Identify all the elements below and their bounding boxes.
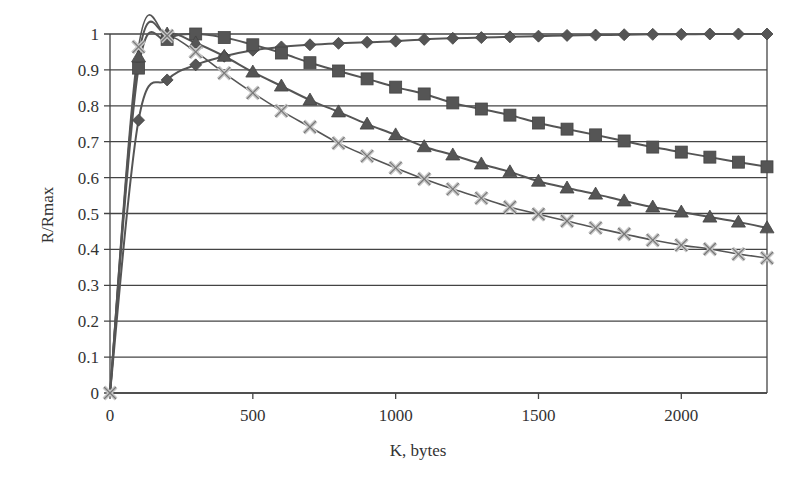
series-line-square	[110, 32, 767, 393]
series-cross	[110, 15, 767, 393]
diamond-marker	[561, 29, 573, 41]
diamond-marker	[390, 35, 402, 47]
square-marker	[475, 103, 487, 115]
gridlines	[104, 34, 767, 393]
x-marker	[561, 215, 573, 227]
square-marker	[647, 141, 659, 153]
x-marker	[418, 173, 430, 185]
x-marker	[390, 162, 402, 174]
x-marker	[504, 201, 516, 213]
triangle-marker	[246, 65, 260, 77]
square-marker	[275, 47, 287, 59]
x-tick-label: 1000	[379, 406, 413, 425]
x-marker	[218, 67, 230, 79]
x-tick-label: 2000	[664, 406, 698, 425]
square-marker	[590, 129, 602, 141]
y-tick-label: 0.7	[78, 133, 100, 152]
diamond-marker	[675, 28, 687, 40]
x-tick-label: 500	[240, 406, 266, 425]
x-marker	[618, 228, 630, 240]
series-square	[110, 32, 767, 393]
series-markers-cross	[104, 30, 773, 399]
x-marker	[333, 137, 345, 149]
y-tick-label: 0.4	[78, 240, 100, 259]
x-marker	[532, 208, 544, 220]
square-marker	[618, 135, 630, 147]
y-tick-label: 0.5	[78, 205, 99, 224]
x-marker	[275, 105, 287, 117]
square-marker	[418, 88, 430, 100]
square-marker	[133, 62, 145, 74]
diamond-marker	[532, 30, 544, 42]
square-marker	[447, 97, 459, 109]
diamond-marker	[618, 29, 630, 41]
series-line-triangle	[110, 22, 767, 393]
diamond-marker	[504, 31, 516, 43]
diamond-marker	[704, 28, 716, 40]
y-tick-label: 1	[91, 25, 100, 44]
diamond-marker	[133, 114, 145, 126]
x-marker	[247, 87, 259, 99]
y-tick-label: 0.9	[78, 61, 99, 80]
series-triangle	[110, 22, 767, 393]
diamond-marker	[361, 36, 373, 48]
y-axis-tick-labels: 00.10.20.30.40.50.60.70.80.91	[78, 25, 100, 403]
square-marker	[761, 161, 773, 173]
diamond-marker	[647, 28, 659, 40]
diamond-marker	[590, 29, 602, 41]
diamond-marker	[418, 33, 430, 45]
square-marker	[333, 65, 345, 77]
x-marker	[304, 121, 316, 133]
x-marker	[590, 222, 602, 234]
square-marker	[532, 117, 544, 129]
x-marker	[447, 183, 459, 195]
x-tick-label: 0	[106, 406, 115, 425]
square-marker	[390, 81, 402, 93]
chart: 00.10.20.30.40.50.60.70.80.91 0500100015…	[0, 0, 805, 497]
diamond-marker	[190, 59, 202, 71]
square-marker	[361, 73, 373, 85]
diamond-marker	[732, 28, 744, 40]
x-axis-tick-labels: 0500100015002000	[106, 406, 699, 425]
data-series	[104, 15, 774, 399]
triangle-marker	[303, 93, 317, 105]
diamond-marker	[333, 37, 345, 49]
series-line-cross	[110, 15, 767, 393]
y-tick-label: 0.1	[78, 348, 99, 367]
square-marker	[504, 109, 516, 121]
y-tick-label: 0.3	[78, 276, 99, 295]
triangle-marker	[274, 79, 288, 91]
y-tick-label: 0.2	[78, 312, 99, 331]
square-marker	[247, 39, 259, 51]
y-tick-label: 0.6	[78, 169, 99, 188]
square-marker	[732, 156, 744, 168]
x-marker	[361, 150, 373, 162]
square-marker	[218, 32, 230, 44]
x-tick-label: 1500	[521, 406, 555, 425]
square-marker	[704, 151, 716, 163]
series-markers-triangle	[132, 27, 774, 233]
x-marker	[475, 192, 487, 204]
y-tick-label: 0.8	[78, 97, 99, 116]
x-axis-title: K, bytes	[390, 441, 447, 460]
y-tick-label: 0	[91, 384, 100, 403]
square-marker	[675, 146, 687, 158]
diamond-marker	[761, 28, 773, 40]
axes	[110, 34, 767, 399]
square-marker	[561, 123, 573, 135]
y-axis-title: R/Rmax	[38, 186, 57, 243]
square-marker	[304, 57, 316, 69]
diamond-marker	[304, 39, 316, 51]
